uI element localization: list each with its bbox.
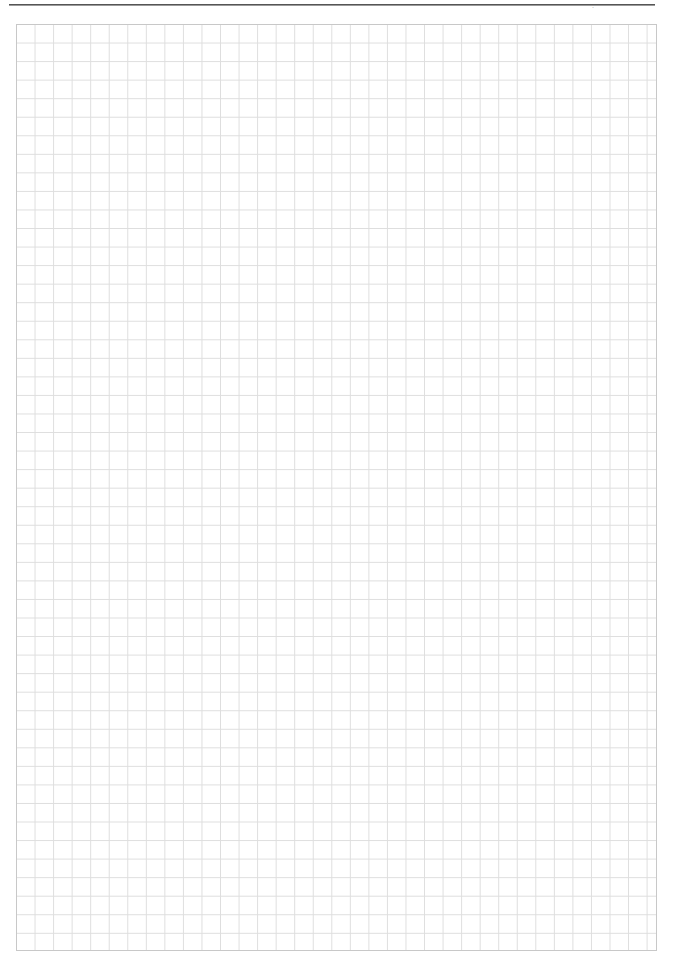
- header-rule: [9, 4, 655, 6]
- graph-paper-grid: [16, 24, 657, 951]
- page-number: ·: [592, 5, 594, 11]
